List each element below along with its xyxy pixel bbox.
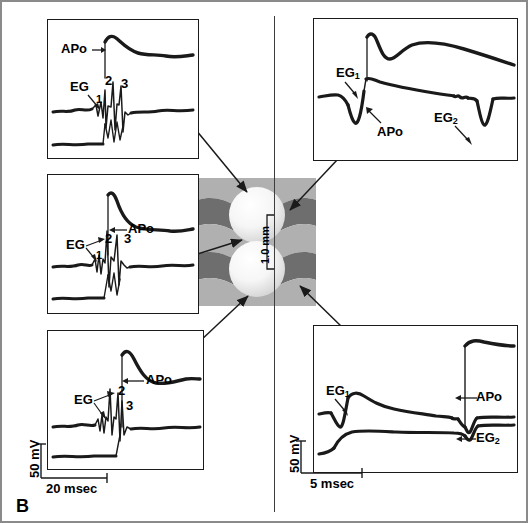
panel-middle-left: APo EG 1 2 3: [47, 174, 199, 314]
scale-time-left: 20 msec: [46, 482, 97, 495]
apo-label: APo: [146, 373, 172, 386]
deflection-3-label: 3: [124, 232, 131, 245]
figure-panel-b: 1.0 mm: [0, 0, 528, 523]
upper-electrode-sphere: [229, 187, 285, 243]
deflection-3-label: 3: [126, 399, 133, 412]
scale-bar-right: 50 mV 5 msec: [290, 439, 400, 489]
scale-voltage-right: 50 mV: [288, 435, 301, 473]
deflection-1-label: 1: [96, 250, 102, 261]
apo-label: APo: [128, 222, 154, 235]
deflection-2-label: 2: [118, 384, 125, 397]
panel-top-left: APo EG 1 2 3: [47, 19, 199, 159]
eg-label: EG: [74, 393, 93, 406]
eg-label: EG: [70, 80, 89, 93]
apo-label: APo: [61, 42, 87, 55]
eg2-label: EG2: [434, 111, 458, 126]
deflection-2-label: 2: [105, 74, 112, 87]
eg1-label: EG1: [336, 66, 360, 81]
scale-bar-left: 50 mV 20 msec: [30, 442, 140, 492]
apo-label: APo: [476, 390, 502, 403]
scale-distance-label: 1.0 mm: [260, 226, 271, 264]
eg1-label: EG1: [326, 384, 350, 399]
center-diagram: 1.0 mm: [198, 178, 316, 306]
deflection-2-label: 2: [105, 232, 112, 245]
scale-time-right: 5 msec: [310, 477, 354, 490]
vertical-divider: [274, 16, 275, 512]
scale-voltage-left: 50 mV: [28, 440, 41, 478]
panel-top-right: EG1 APo EG2: [313, 18, 518, 161]
eg2-label: EG2: [476, 431, 500, 446]
lower-electrode-sphere: [229, 241, 285, 297]
panel-letter: B: [16, 496, 29, 517]
deflection-3-label: 3: [121, 77, 128, 90]
deflection-1-label: 1: [96, 94, 102, 105]
eg-label: EG: [66, 238, 85, 251]
